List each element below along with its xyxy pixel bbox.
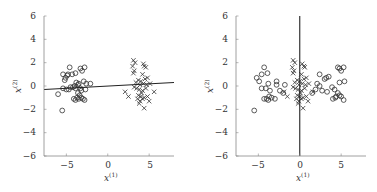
ytick-label: 6 bbox=[222, 11, 228, 21]
ytick-label: 4 bbox=[30, 34, 36, 44]
circle-marker bbox=[277, 88, 282, 93]
ytick-label: −2 bbox=[23, 104, 36, 114]
cross-marker bbox=[133, 60, 137, 64]
cross-marker bbox=[306, 99, 310, 103]
ytick-label: 0 bbox=[222, 81, 228, 91]
xtick-label: −5 bbox=[60, 160, 74, 170]
cross-marker bbox=[301, 95, 305, 99]
circle-marker bbox=[259, 72, 264, 77]
ytick-label: 6 bbox=[30, 11, 36, 21]
xtick-label: 0 bbox=[297, 160, 303, 170]
cross-marker bbox=[293, 80, 297, 84]
circle-marker bbox=[56, 92, 61, 97]
ytick-label: −4 bbox=[23, 127, 37, 137]
y-axis-label: x(2) bbox=[203, 79, 215, 93]
cross-marker bbox=[140, 72, 144, 76]
axes-right bbox=[236, 16, 366, 156]
ytick-label: 2 bbox=[30, 57, 36, 67]
xtick-label: 5 bbox=[338, 160, 344, 170]
circle-marker bbox=[252, 108, 257, 113]
ytick-label: 2 bbox=[222, 57, 228, 67]
circle-marker bbox=[320, 88, 325, 93]
cross-marker bbox=[301, 106, 305, 110]
cross-marker bbox=[145, 94, 149, 98]
cross-marker bbox=[300, 62, 304, 66]
cross-marker bbox=[142, 106, 146, 110]
circle-marker bbox=[265, 71, 270, 76]
circle-marker bbox=[341, 98, 346, 103]
circle-marker bbox=[262, 65, 267, 70]
circle-marker bbox=[266, 81, 271, 86]
xtick-label: 0 bbox=[105, 160, 111, 170]
cross-marker bbox=[291, 58, 295, 62]
ytick-label: 4 bbox=[222, 34, 228, 44]
cross-marker bbox=[123, 90, 127, 94]
cross-marker bbox=[130, 64, 134, 68]
circle-marker bbox=[67, 65, 72, 70]
circle-marker bbox=[60, 108, 65, 113]
cross-marker bbox=[126, 94, 130, 98]
circle-marker bbox=[282, 82, 287, 87]
scatter-plot-right: 6 4 2 0 −2 −4 −6 −5 0 5 x(1) x(2) bbox=[203, 11, 366, 183]
circle-marker bbox=[342, 79, 347, 84]
ytick-label: −4 bbox=[215, 127, 229, 137]
ytick-label: −6 bbox=[23, 151, 37, 161]
cross-marker bbox=[307, 81, 311, 85]
scatter-plot-left: 6 4 2 0 −2 −4 −6 −5 0 5 x(1) x(2) bbox=[11, 11, 174, 183]
ytick-label: 0 bbox=[30, 81, 36, 91]
cross-marker bbox=[285, 94, 289, 98]
plot-area-left bbox=[44, 58, 174, 113]
cross-marker bbox=[147, 99, 151, 103]
cross-marker bbox=[131, 58, 135, 62]
cross-marker bbox=[152, 90, 156, 94]
circle-marker bbox=[325, 89, 330, 94]
circle-marker bbox=[254, 75, 259, 80]
ytick-label: −2 bbox=[215, 104, 228, 114]
circle-marker bbox=[268, 88, 273, 93]
circle-marker bbox=[274, 82, 279, 87]
x-axis-label: x(1) bbox=[296, 171, 310, 183]
cross-marker bbox=[304, 94, 308, 98]
plot-area-right bbox=[252, 16, 347, 156]
cross-marker bbox=[300, 81, 304, 85]
x-axis-label: x(1) bbox=[104, 171, 118, 183]
circle-marker bbox=[257, 79, 262, 84]
circle-marker bbox=[337, 80, 342, 85]
cross-marker bbox=[144, 65, 148, 69]
circle-marker bbox=[317, 72, 322, 77]
xtick-label: −5 bbox=[251, 160, 265, 170]
cross-marker bbox=[293, 60, 297, 64]
chart-canvas: 6 4 2 0 −2 −4 −6 −5 0 5 x(1) x(2) 6 4 2 … bbox=[0, 0, 377, 192]
y-axis-label: x(2) bbox=[11, 79, 23, 93]
xtick-label: 5 bbox=[147, 160, 153, 170]
ytick-label: −6 bbox=[215, 151, 229, 161]
cross-marker bbox=[142, 95, 146, 99]
